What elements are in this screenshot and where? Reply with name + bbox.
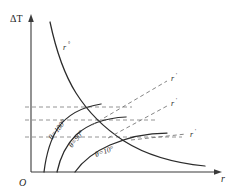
theta-10-label: θ=10° — [94, 144, 115, 159]
y-axis-arrowhead — [28, 14, 34, 22]
curve-label-asymptote-3: r ' — [190, 128, 196, 139]
x-axis-label: r — [221, 173, 225, 184]
asymptote-1-label: r — [171, 74, 175, 83]
decay-curve-label: r — [63, 43, 67, 52]
asymptote-2-label: r — [171, 99, 175, 108]
asymptote-3-label: r — [190, 130, 194, 139]
theta-90-label: θ=90° — [66, 129, 85, 150]
asymptote-group — [92, 81, 186, 140]
asymptote-2-label-sup: ' — [176, 97, 177, 103]
curve-label-asymptote-2: r ' — [171, 97, 177, 108]
axes-group — [28, 14, 222, 175]
decay-curve-label-sup: ° — [68, 41, 70, 47]
curve-label-decay: r ° — [63, 41, 70, 52]
figure-container: ΔT r O r ° r ' r ' r ' θ=180° θ=90° θ=10… — [0, 0, 234, 193]
curve-label-asymptote-1: r ' — [171, 72, 177, 83]
theta-180-label: θ=180° — [46, 118, 67, 142]
asymptote-upper — [92, 81, 167, 125]
delta-t-vs-r-plot: ΔT r O r ° r ' r ' r ' θ=180° θ=90° θ=10… — [0, 0, 234, 193]
asymptote-3-label-sup: ' — [195, 128, 196, 134]
asymptote-1-label-sup: ' — [176, 72, 177, 78]
y-axis-label: ΔT — [10, 13, 23, 24]
origin-label: O — [19, 177, 26, 188]
